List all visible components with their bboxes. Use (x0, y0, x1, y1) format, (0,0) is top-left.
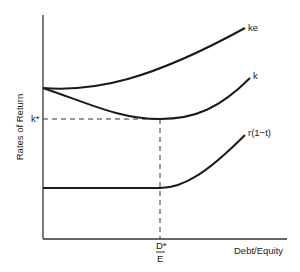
r1t-curve (43, 135, 245, 188)
x-axis-label: Debt/Equity (234, 245, 283, 256)
r1t-label: r(1−t) (248, 127, 271, 138)
k-label: k (253, 70, 258, 81)
k-curve (43, 78, 250, 119)
y-axis-label: Rates of Return (14, 94, 25, 161)
ke-curve (43, 28, 245, 89)
d-star-denominator: E (157, 253, 163, 264)
ke-label: ke (248, 22, 258, 33)
chart: ke k r(1−t) k* D* E Debt/Equity Rates of… (0, 0, 300, 272)
k-star-label: k* (31, 113, 40, 124)
d-star-numerator: D* (156, 240, 167, 251)
